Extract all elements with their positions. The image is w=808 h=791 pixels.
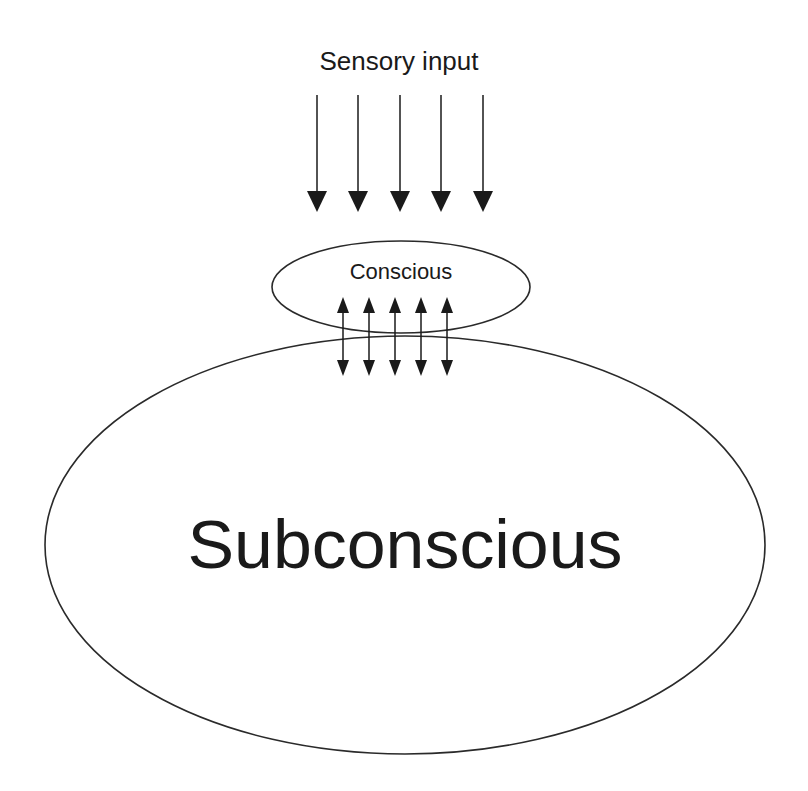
subconscious-label: Subconscious [188,506,623,582]
sensory-arrow [307,95,327,212]
conscious-ellipse [272,241,530,333]
sensory-arrow [390,95,410,212]
sensory-input-label: Sensory input [320,46,480,76]
conscious-subconscious-diagram: Sensory input Conscious [0,0,808,791]
conscious-label: Conscious [350,259,453,284]
sensory-arrow [431,95,451,212]
sensory-input-arrows [307,95,493,212]
bidirectional-arrow [337,297,349,376]
sensory-arrow [348,95,368,212]
sensory-arrow [473,95,493,212]
